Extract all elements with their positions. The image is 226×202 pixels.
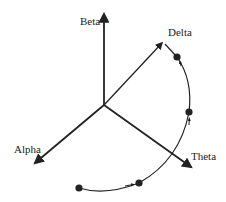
delta-label: Delta bbox=[168, 26, 192, 38]
trajectory-point bbox=[75, 184, 82, 191]
theta-label: Theta bbox=[191, 150, 216, 162]
theta-axis bbox=[104, 105, 191, 167]
axes-diagram bbox=[0, 0, 226, 202]
trajectory-point bbox=[135, 179, 142, 186]
delta-axis bbox=[104, 43, 162, 105]
diagram-canvas: Beta Delta Alpha Theta bbox=[0, 0, 226, 202]
trajectory-points bbox=[75, 53, 192, 191]
beta-label: Beta bbox=[80, 15, 100, 27]
trajectory-point bbox=[185, 108, 192, 115]
alpha-axis bbox=[35, 105, 104, 163]
trajectory-point bbox=[173, 53, 180, 60]
trajectory-path bbox=[79, 44, 190, 191]
alpha-label: Alpha bbox=[14, 143, 41, 155]
